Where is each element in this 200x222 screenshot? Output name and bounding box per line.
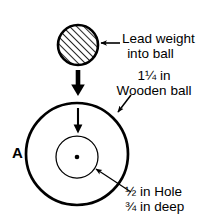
technical-diagram: Lead weight into ball 1¼ in Wooden ball … [0,0,200,222]
center-dot [75,155,80,160]
wooden-ball-label: 1¼ in Wooden ball [110,69,198,98]
lead-weight-label-line1: Lead weight [122,31,195,46]
drop-arrow-thin [74,108,83,134]
hole-size-label: ½ in Hole [125,184,182,199]
lead-weight-circle [58,25,98,65]
figure-letter-a: A [12,145,23,161]
drop-arrow-thick [71,70,85,96]
hole-label: ½ in Hole ¾ in deep [125,185,184,214]
lead-weight-label-line2: into ball [122,47,195,62]
hole-depth-label: ¾ in deep [125,199,184,214]
ball-name-label: Wooden ball [117,83,192,98]
lead-weight-label: Lead weight into ball [122,32,195,61]
ball-size-label: 1¼ in [137,68,170,83]
